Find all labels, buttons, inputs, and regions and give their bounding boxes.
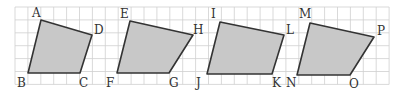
shape-polygon	[207, 22, 284, 74]
quadrilateral-ijkl: ILKJ	[194, 7, 294, 90]
vertex-label-k: K	[272, 76, 282, 90]
vertex-label-h: H	[193, 23, 203, 37]
quadrilateral-abcd: ADCB	[17, 6, 104, 90]
vertex-label-f: F	[106, 76, 114, 90]
shape-polygon	[117, 21, 193, 73]
vertex-label-c: C	[79, 76, 88, 90]
vertex-label-b: B	[17, 76, 26, 90]
vertex-label-n: N	[286, 76, 297, 90]
vertex-label-j: J	[194, 76, 201, 90]
quadrilateral-efgh: EHGF	[106, 7, 203, 90]
vertex-label-l: L	[286, 23, 294, 37]
vertex-label-a: A	[31, 6, 41, 20]
vertex-label-m: M	[299, 7, 311, 21]
shape-polygon	[28, 20, 92, 73]
vertex-label-d: D	[94, 23, 104, 37]
shapes: ADCBEHGFILKJMPON	[17, 6, 385, 91]
vertex-label-e: E	[120, 7, 129, 21]
vertex-label-p: P	[377, 24, 385, 38]
shape-polygon	[297, 23, 374, 75]
vertex-label-i: I	[211, 7, 216, 21]
vertex-label-g: G	[169, 76, 179, 90]
quadrilateral-diagram: ADCBEHGFILKJMPON	[0, 0, 403, 97]
vertex-label-o: O	[349, 77, 359, 91]
